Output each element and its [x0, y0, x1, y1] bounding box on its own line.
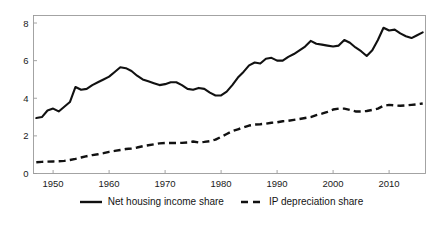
x-tick-label: 1950 [43, 178, 64, 189]
chart-legend: Net housing income share IP depreciation… [0, 196, 442, 208]
legend-entry-net-housing-income-share[interactable]: Net housing income share [79, 196, 224, 208]
legend-entry-ip-depreciation-share[interactable]: IP depreciation share [240, 196, 363, 208]
series-line-net-housing-income-share [36, 28, 422, 118]
chart-figure: 02468 1950196019701980199020002010 Net h… [0, 0, 442, 226]
y-axis-tick-labels: 02468 [23, 18, 28, 179]
y-tick-label: 2 [23, 130, 28, 141]
y-tick-label: 4 [23, 93, 28, 104]
legend-label-ip-depreciation-share: IP depreciation share [269, 196, 363, 208]
x-tick-label: 1970 [155, 178, 176, 189]
x-tick-label: 2010 [379, 178, 400, 189]
line-chart-plot: 02468 1950196019701980199020002010 [0, 0, 442, 226]
legend-swatch-solid-icon [79, 197, 103, 207]
y-tick-label: 0 [23, 168, 28, 179]
x-tick-label: 1980 [211, 178, 232, 189]
legend-swatch-dashed-icon [240, 197, 264, 207]
y-tick-label: 6 [23, 55, 28, 66]
y-tick-label: 8 [23, 18, 28, 29]
legend-label-net-housing-income-share: Net housing income share [108, 196, 224, 208]
axis-frame [34, 16, 426, 174]
series-line-ip-depreciation-share [36, 104, 422, 163]
x-tick-label: 1960 [99, 178, 120, 189]
x-tick-label: 1990 [267, 178, 288, 189]
x-tick-label: 2000 [323, 178, 344, 189]
x-axis-tick-labels: 1950196019701980199020002010 [43, 178, 400, 189]
